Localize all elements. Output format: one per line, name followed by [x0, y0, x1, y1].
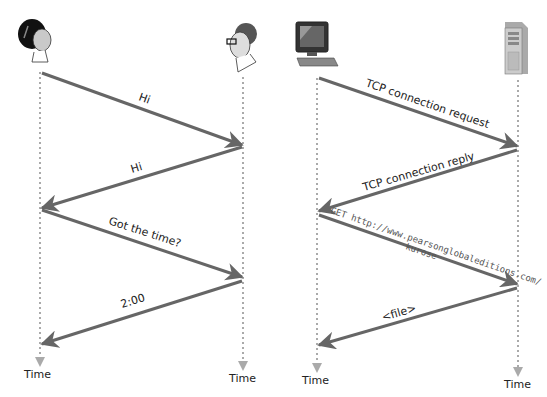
message-arrow [319, 288, 517, 345]
protocol-diagram: Hi Hi Got the time? 2:00 TCP connection … [0, 0, 547, 397]
time-label: Time [503, 378, 531, 391]
message-label: Hi [129, 160, 144, 176]
time-label: Time [301, 374, 329, 387]
message-arrow [42, 210, 242, 277]
desktop-computer-icon [296, 22, 338, 66]
time-label: Time [228, 372, 256, 385]
message-arrow [319, 150, 517, 211]
woman-head-icon [18, 19, 51, 62]
message-label: TCP connection request [363, 76, 492, 131]
man-with-glasses-icon [227, 23, 257, 72]
message-label: 2:00 [119, 291, 146, 311]
server-tower-icon [505, 22, 528, 74]
message-arrow [319, 78, 517, 146]
message-arrow [42, 147, 242, 208]
time-label: Time [23, 368, 51, 381]
message-label: TCP connection reply [360, 149, 476, 194]
message-label: Hi [137, 91, 152, 107]
message-label: GET http://www.pearsonglobaleditions.com… [329, 205, 542, 287]
message-arrow [42, 73, 242, 145]
